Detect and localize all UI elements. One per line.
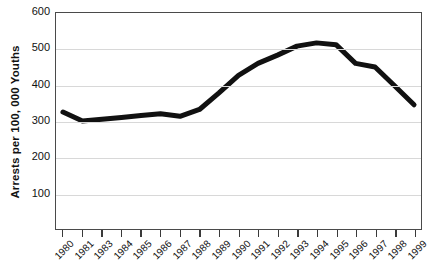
x-axis-tick <box>160 230 161 237</box>
gridline <box>56 86 421 87</box>
x-axis-tick-labels: 1980198119831984198519861987198819891990… <box>55 238 434 278</box>
series-polyline <box>63 43 414 121</box>
x-axis-tick <box>297 230 298 237</box>
x-axis-tick <box>278 230 279 237</box>
x-axis-tick <box>121 230 122 237</box>
x-axis-tick <box>219 230 220 237</box>
y-axis-tick-label: 400 <box>20 79 50 90</box>
x-axis-tick <box>239 230 240 237</box>
x-axis-tick <box>140 230 141 237</box>
gridline <box>56 49 421 50</box>
line-series <box>56 13 421 229</box>
x-axis-tick <box>376 230 377 237</box>
x-axis-ticks <box>55 230 422 238</box>
plot-area <box>55 12 422 230</box>
chart-container: Arrests per 100, 000 Youths 600500400300… <box>0 0 434 278</box>
x-axis-tick <box>395 230 396 237</box>
gridline <box>56 195 421 196</box>
x-axis-tick <box>101 230 102 237</box>
x-axis-tick <box>317 230 318 237</box>
y-axis-tick-label: 200 <box>20 151 50 162</box>
y-axis-tick-label: 500 <box>20 42 50 53</box>
y-axis-tick-label: 300 <box>20 115 50 126</box>
x-axis-tick <box>415 230 416 237</box>
x-axis-tick <box>337 230 338 237</box>
x-axis-tick <box>82 230 83 237</box>
x-axis-tick <box>62 230 63 237</box>
x-axis-tick <box>180 230 181 237</box>
x-axis-tick <box>356 230 357 237</box>
y-axis-tick-label: 600 <box>20 6 50 17</box>
x-axis-tick <box>258 230 259 237</box>
y-axis-tick-labels: 600500400300200100 <box>18 0 50 278</box>
gridline <box>56 158 421 159</box>
y-axis-tick-label: 100 <box>20 188 50 199</box>
gridline <box>56 122 421 123</box>
x-axis-tick <box>199 230 200 237</box>
